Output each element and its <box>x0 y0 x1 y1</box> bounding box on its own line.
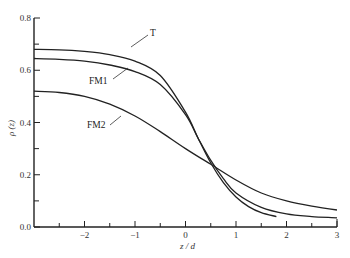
curve-t <box>34 49 276 216</box>
series-label-fm1: FM1 <box>89 76 108 86</box>
x-axis-title: z / d <box>179 241 196 251</box>
density-profile-chart: −2−101230.00.20.40.60.8 T FM1 FM2 z / d … <box>0 0 350 258</box>
y-tick-label: 0.0 <box>20 222 32 232</box>
x-tick-label: 0 <box>183 230 188 240</box>
y-tick-label: 0.6 <box>20 65 32 75</box>
y-tick-label: 0.4 <box>20 118 32 128</box>
curves <box>34 49 337 218</box>
y-axis-title: ρ (z) <box>6 120 16 137</box>
series-label-t: T <box>150 28 156 38</box>
curve-fm2 <box>34 91 337 210</box>
x-tick-label: 1 <box>234 230 239 240</box>
x-tick-label: −1 <box>130 230 140 240</box>
y-tick-label: 0.2 <box>20 170 31 180</box>
annotations: T FM1 FM2 <box>87 28 156 130</box>
x-tick-label: 3 <box>335 230 340 240</box>
x-tick-label: −2 <box>80 230 90 240</box>
fm1-leader-line <box>113 68 128 79</box>
series-label-fm2: FM2 <box>87 120 106 130</box>
axes: −2−101230.00.20.40.60.8 <box>20 13 340 240</box>
t-leader-line <box>131 35 148 47</box>
y-tick-label: 0.8 <box>20 13 32 23</box>
fm2-leader-line <box>110 116 121 125</box>
curve-fm1 <box>34 59 337 218</box>
x-tick-label: 2 <box>284 230 289 240</box>
